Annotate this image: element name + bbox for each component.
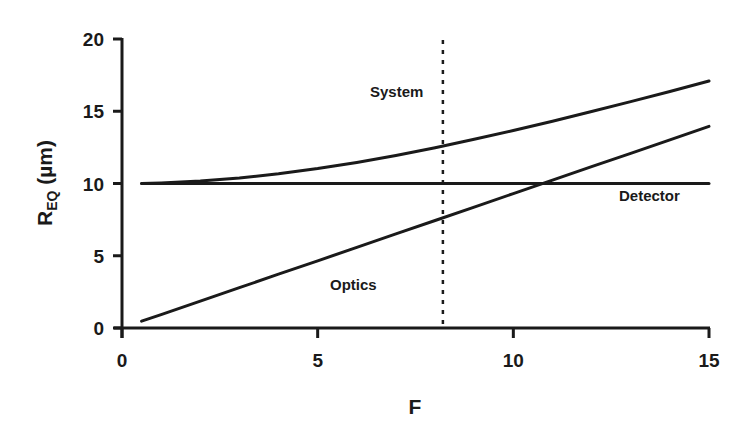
x-axis: 051015 [114,328,720,371]
x-axis-title: F [409,395,422,418]
y-axis-title-subscript: EQ [44,190,60,210]
series-line-optics [142,126,709,321]
y-axis-title-main: R [33,211,56,226]
x-tick-label: 0 [117,350,128,371]
y-axis-ticks: 05101520 [83,29,122,339]
series-line-system [142,81,709,184]
y-axis: 05101520 [83,29,122,339]
y-axis-title: REQ (µm) [33,140,60,226]
y-tick-label: 15 [83,101,105,122]
x-tick-label: 5 [312,350,323,371]
x-axis-ticks: 051015 [117,328,720,371]
plot-area [142,40,709,326]
series-label-detector: Detector [619,187,680,204]
y-tick-label: 10 [83,174,104,195]
y-tick-label: 5 [93,246,104,267]
x-tick-label: 15 [698,350,720,371]
x-tick-label: 10 [503,350,524,371]
series-label-optics: Optics [330,276,377,293]
y-tick-label: 20 [83,29,104,50]
y-tick-label: 0 [93,318,104,339]
line-chart: 05101520 051015 F REQ (µm) System Detect… [0,0,745,433]
y-axis-title-unit: (µm) [33,140,56,191]
series-label-system: System [370,83,423,100]
